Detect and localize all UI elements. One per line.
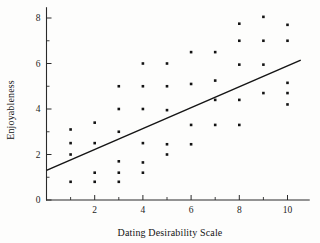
y-tick-label: 0 — [36, 195, 41, 205]
regression-line — [47, 60, 301, 170]
data-point — [214, 124, 217, 127]
y-tick-label: 4 — [36, 104, 41, 114]
data-point — [166, 143, 169, 146]
regression-trend-line — [47, 60, 301, 170]
data-point — [262, 63, 265, 66]
data-point — [118, 181, 121, 184]
data-point — [93, 171, 96, 174]
data-point — [142, 161, 145, 164]
data-point — [166, 153, 169, 156]
y-tick-label: 6 — [36, 59, 41, 69]
data-point — [190, 83, 193, 86]
data-point — [118, 108, 121, 111]
data-point — [166, 85, 169, 88]
data-point — [262, 39, 265, 42]
data-point — [69, 181, 72, 184]
x-tick-label: 2 — [92, 205, 97, 215]
data-point — [118, 160, 121, 163]
x-tick-label: 8 — [237, 205, 242, 215]
y-tick-labels: 02468 — [36, 13, 41, 205]
data-point — [142, 108, 145, 111]
data-point — [190, 143, 193, 146]
data-point — [93, 181, 96, 184]
data-point — [118, 130, 121, 133]
data-point — [69, 128, 72, 131]
data-point — [142, 85, 145, 88]
data-point — [142, 62, 145, 65]
data-points — [69, 16, 289, 184]
data-point — [262, 16, 265, 19]
x-tick-label: 6 — [189, 205, 194, 215]
data-point — [286, 92, 289, 95]
y-tick-label: 8 — [36, 13, 41, 23]
data-point — [238, 39, 241, 42]
data-point — [166, 62, 169, 65]
data-point — [190, 124, 193, 127]
y-tick-label: 2 — [36, 150, 41, 160]
x-tick-label: 4 — [141, 205, 146, 215]
data-point — [286, 24, 289, 27]
data-point — [286, 39, 289, 42]
data-point — [286, 82, 289, 85]
data-point — [262, 92, 265, 95]
data-point — [238, 99, 241, 102]
data-point — [190, 51, 193, 54]
data-point — [69, 153, 72, 156]
x-tick-labels: 246810 — [92, 205, 292, 215]
data-point — [118, 85, 121, 88]
y-axis-label: Enjoyableness — [5, 80, 16, 140]
x-axis-label: Dating Desirability Scale — [118, 227, 223, 238]
data-point — [238, 22, 241, 25]
data-point — [238, 63, 241, 66]
data-point — [214, 51, 217, 54]
data-point — [118, 171, 121, 174]
data-point — [238, 124, 241, 127]
data-point — [214, 79, 217, 82]
scatter-plot-figure: 246810 02468 Dating Desirability Scale E… — [0, 0, 320, 243]
data-point — [69, 142, 72, 145]
data-point — [214, 99, 217, 102]
x-tick-label: 10 — [283, 205, 293, 215]
plot-canvas: 246810 02468 Dating Desirability Scale E… — [0, 0, 320, 243]
data-point — [142, 171, 145, 174]
axes — [47, 8, 310, 200]
data-point — [93, 121, 96, 124]
data-point — [93, 142, 96, 145]
data-point — [166, 109, 169, 112]
data-point — [142, 142, 145, 145]
data-point — [286, 103, 289, 106]
